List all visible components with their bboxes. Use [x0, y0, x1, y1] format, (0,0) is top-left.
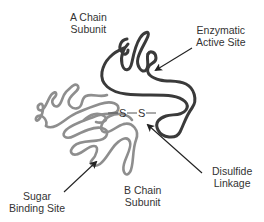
sulfur-atom-1: S	[119, 107, 126, 119]
sugar-site-label-line2: Binding Site	[9, 203, 65, 215]
sugar-site-label-line1: Sugar	[9, 191, 65, 203]
enzymatic-site-arrow	[156, 48, 192, 70]
a-chain-label-line1: A Chain	[70, 12, 107, 24]
enzymatic-site-label-line2: Active Site	[196, 37, 246, 49]
b-chain-label-line1: B Chain	[124, 185, 161, 197]
disulfide-bond: S S	[108, 107, 156, 119]
b-chain-label-line2: Subunit	[124, 197, 161, 209]
a-chain-label-line2: Subunit	[70, 24, 107, 36]
protein-structure-diagram: S S A Chain Subunit Enzymatic Active Sit…	[0, 0, 264, 222]
b-chain-label: B Chain Subunit	[124, 185, 161, 208]
sulfur-atom-2: S	[138, 107, 145, 119]
enzymatic-site-label-line1: Enzymatic	[196, 25, 246, 37]
sugar-site-label: Sugar Binding Site	[9, 191, 65, 214]
a-chain-label: A Chain Subunit	[70, 12, 107, 35]
sugar-site-arrow	[64, 162, 96, 192]
a-chain-subunit	[102, 32, 195, 137]
disulfide-arrow	[148, 125, 202, 173]
disulfide-label-line1: Disulfide	[212, 166, 252, 178]
disulfide-label-line2: Linkage	[212, 178, 252, 190]
enzymatic-site-label: Enzymatic Active Site	[196, 25, 246, 48]
b-chain-subunit	[36, 85, 137, 175]
disulfide-label: Disulfide Linkage	[212, 166, 252, 189]
